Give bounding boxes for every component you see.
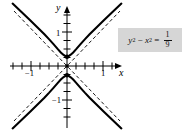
hyperbola-figure: x y −1 1 1 −1 y2 − x2 = 1 9 — [0, 0, 187, 130]
equation-equals-sign: = — [154, 35, 159, 45]
equation-fraction: 1 9 — [164, 31, 172, 49]
equation-minus-operator: − — [138, 35, 143, 45]
x-tick-label-positive-one: 1 — [101, 69, 105, 78]
origin-point — [65, 64, 69, 68]
y-tick-label-negative-one: −1 — [52, 96, 61, 105]
y-tick-label-positive-one: 1 — [56, 29, 60, 38]
hyperbola-equation: y2 − x2 = 1 9 — [128, 31, 172, 49]
fraction-denominator: 9 — [164, 41, 172, 50]
vertex-point-upper — [65, 55, 69, 59]
y-axis-label: y — [56, 3, 60, 13]
x-tick-label-negative-one: −1 — [25, 69, 34, 78]
plot-area — [0, 0, 187, 130]
x-axis-label: x — [119, 68, 123, 78]
vertex-point-lower — [65, 73, 69, 77]
equation-annotation-box: y2 − x2 = 1 9 — [118, 28, 182, 52]
